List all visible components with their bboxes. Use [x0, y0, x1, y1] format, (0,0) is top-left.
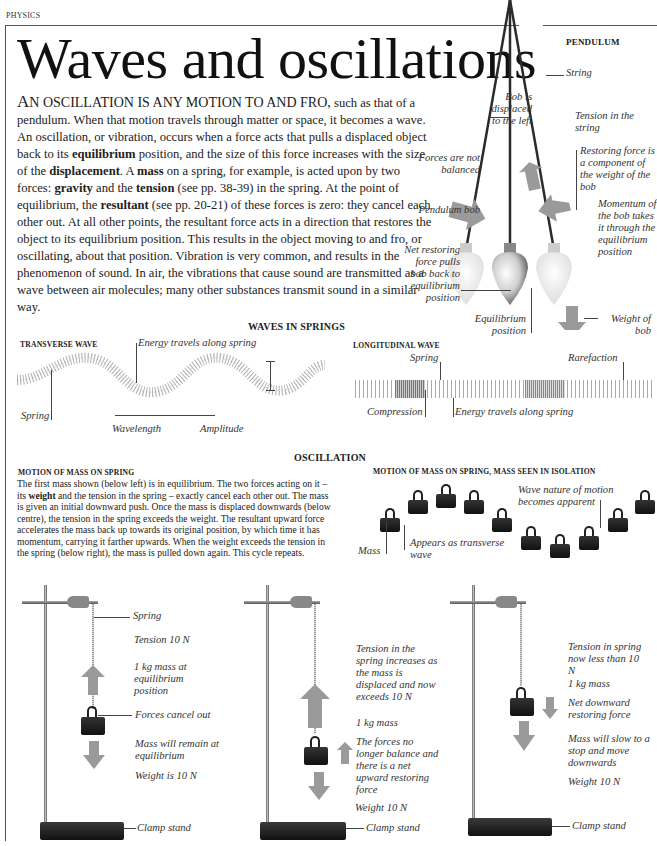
stand-3-weight-arrow	[513, 721, 535, 751]
stand-3-spring	[520, 604, 522, 686]
label-net-restoring: Net restoring force pulls bob back to eq…	[400, 244, 460, 304]
stand-1-mass	[81, 717, 105, 735]
oscillation-paragraph: The first mass shown (below left) is in …	[17, 478, 337, 559]
leader-bob-displaced	[489, 117, 509, 118]
transverse-spring-wave	[15, 350, 325, 400]
stand-3-clamp	[495, 596, 517, 608]
s1-leader-spring	[94, 617, 130, 618]
label-restoring-force: Restoring force is a component of the we…	[580, 145, 656, 193]
label-spring-longitudinal: Spring	[410, 352, 438, 364]
term-mass: mass	[137, 164, 164, 178]
transverse-heading: TRANSVERSE WAVE	[20, 340, 98, 349]
s3-label-net: Net downward restoring force	[568, 697, 650, 721]
leader-equilibrium	[531, 288, 532, 333]
stand-3-base	[468, 818, 552, 836]
label-bob-displaced: Bob is displaced to the left	[484, 91, 532, 127]
label-mass-iso: Mass	[358, 545, 380, 557]
label-momentum: Momentum of the bob takes it through the…	[598, 198, 657, 258]
bob-center	[492, 243, 528, 305]
bob-right	[536, 243, 572, 305]
term-tension: tension	[136, 181, 175, 195]
stand-2-tension-arrow	[300, 684, 330, 728]
leader-net-restoring	[461, 290, 511, 291]
stand-2-net-arrow	[337, 742, 353, 764]
leader-spring-longitudinal	[440, 362, 441, 380]
frame-left-rule	[5, 25, 6, 841]
stand-1-tension-arrow	[81, 665, 105, 695]
oscillation-heading: OSCILLATION	[294, 452, 366, 463]
longitudinal-heading: LONGITUDINAL WAVE	[353, 341, 440, 350]
label-rarefaction: Rarefaction	[568, 352, 618, 364]
s2-leader-clamp	[346, 828, 364, 829]
label-forces-not-balanced: Forces are not balanced	[418, 152, 480, 176]
s2-label-weight: Weight 10 N	[355, 802, 407, 814]
label-appears: Appears as transverse wave	[410, 537, 510, 561]
label-weight-of-bob: Weight of bob	[601, 313, 651, 337]
s3-label-clamp: Clamp stand	[572, 820, 626, 832]
stand-2-clamp	[290, 596, 312, 608]
label-energy-transverse: Energy travels along spring	[138, 337, 256, 349]
term-displacement: displacement	[49, 164, 120, 178]
intro-lead: N OSCILLATION IS ANY MOTION TO AND FRO,	[29, 95, 331, 110]
s1-label-spring: Spring	[133, 610, 161, 622]
leader-energy-longitudinal	[453, 398, 454, 417]
stand-2-mass	[304, 747, 328, 765]
stand-1-base	[40, 822, 124, 840]
s2-label-forces: The forces no longer balance and there i…	[356, 736, 440, 796]
s1-leader-clamp	[124, 828, 136, 829]
s3-label-weight: Weight 10 N	[568, 776, 620, 788]
leader-appears	[404, 525, 405, 550]
intro-paragraph: AN OSCILLATION IS ANY MOTION TO AND FRO,…	[17, 93, 435, 316]
s2-label-mass: 1 kg mass	[356, 717, 398, 729]
s3-label-slow: Mass will slow to a stop and move downwa…	[568, 733, 652, 769]
leader-weight	[584, 318, 598, 319]
leader-mass-iso	[386, 522, 387, 554]
motion-heading: MOTION OF MASS ON SPRING	[18, 468, 134, 477]
s1-label-remain: Mass will remain at equilibrium	[135, 738, 229, 762]
s1-label-weight: Weight is 10 N	[135, 770, 197, 782]
s2-label-tension: Tension in the spring increases as the m…	[356, 643, 442, 703]
s1-label-clamp: Clamp stand	[137, 822, 191, 834]
s3-leader-clamp	[552, 826, 570, 827]
compression-zone-1	[395, 380, 425, 398]
stand-2-weight-arrow	[308, 772, 330, 800]
term-gravity: gravity	[54, 181, 92, 195]
leader-spring-transverse	[51, 370, 52, 420]
s1-label-mass: 1 kg mass at equilibrium position	[134, 661, 214, 697]
stand-1-clamp	[67, 596, 89, 608]
label-tension-in-string: Tension in the string	[575, 110, 635, 134]
term-equilibrium: equilibrium	[72, 147, 136, 161]
label-string: String	[566, 67, 592, 79]
stand-1-rod	[44, 585, 47, 827]
wavelength-bar	[115, 415, 215, 416]
isolation-heading: MOTION OF MASS ON SPRING, MASS SEEN IN I…	[373, 467, 595, 476]
term-weight: weight	[28, 490, 55, 501]
s1-label-tension: Tension 10 N	[134, 634, 190, 646]
amplitude-bar	[270, 361, 271, 391]
section-label: PHYSICS	[6, 11, 40, 20]
amplitude-tick-bottom	[266, 390, 275, 391]
stand-3-rod	[472, 585, 475, 827]
label-spring-transverse: Spring	[21, 410, 49, 422]
stand-3-mass	[510, 698, 534, 716]
stand-2-rod	[266, 585, 269, 827]
stand-1-weight-arrow	[83, 741, 105, 769]
leader-compression	[425, 390, 426, 417]
waves-in-springs-heading: WAVES IN SPRINGS	[248, 321, 345, 332]
s3-label-mass: 1 kg mass	[568, 678, 610, 690]
label-amplitude: Amplitude	[200, 423, 244, 435]
stand-2-base	[260, 822, 346, 840]
leader-string	[546, 75, 564, 76]
label-energy-longitudinal: Energy travels along spring	[455, 406, 573, 418]
amplitude-tick-top	[266, 361, 275, 362]
label-equilibrium-position: Equilibrium position	[470, 313, 526, 337]
label-compression: Compression	[367, 406, 423, 418]
s3-label-tension: Tension in spring now less than 10 N	[568, 641, 648, 677]
leader-restoring-force	[576, 150, 577, 210]
stand-3-net-arrow	[542, 697, 558, 719]
s1-label-forces: Forces cancel out	[135, 709, 215, 721]
term-resultant: resultant	[101, 198, 149, 212]
longitudinal-spring	[355, 380, 653, 398]
leader-rarefaction	[623, 362, 624, 380]
leader-wave-nature	[600, 500, 601, 528]
